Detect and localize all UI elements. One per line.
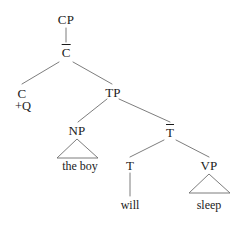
np-triangle — [57, 139, 98, 158]
edge-tp-to-tbar — [119, 99, 170, 122]
tree-branch-lines — [0, 0, 250, 225]
edge-tbar-to-t — [130, 140, 164, 157]
node-cp: CP — [58, 13, 74, 26]
terminal-t-word: will — [121, 199, 140, 211]
node-np: NP — [68, 124, 85, 137]
node-t-head: T — [126, 159, 134, 172]
node-t-bar: T — [166, 125, 174, 139]
t-bar-glyph: T — [166, 125, 174, 139]
node-vp: VP — [200, 159, 217, 172]
edge-cbar-to-c — [22, 62, 59, 84]
vp-triangle — [189, 174, 230, 193]
node-c-head: C — [18, 87, 27, 100]
syntax-tree-figure: CP C C +Q TP NP T T VP the boy will slee… — [0, 0, 250, 225]
edge-cbar-to-tp — [73, 62, 112, 84]
terminal-np-phrase: the boy — [62, 160, 98, 172]
node-c-feature-q: +Q — [15, 100, 31, 113]
edge-tp-to-np — [78, 99, 107, 122]
edge-tbar-to-vp — [176, 140, 209, 157]
node-tp: TP — [105, 86, 121, 99]
node-c-bar: C — [62, 45, 71, 59]
terminal-vp-word: sleep — [197, 199, 222, 211]
c-bar-glyph: C — [62, 45, 71, 59]
